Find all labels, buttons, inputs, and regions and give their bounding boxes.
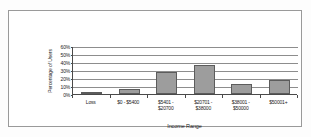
bar-slot xyxy=(73,46,111,94)
bar-slot xyxy=(223,46,261,94)
y-tick-label: 40% xyxy=(61,61,70,66)
bar xyxy=(231,84,252,94)
x-tick-label: $38001 -$50000 xyxy=(222,99,260,119)
x-axis-tick-labels: Loss$0 - $5400$5401 -$20700$20701 -$3800… xyxy=(72,99,297,119)
bar-slot xyxy=(148,46,186,94)
y-tick-label: 30% xyxy=(61,69,70,74)
x-tick-label-line: $20700 xyxy=(147,105,185,111)
y-tick-label: 20% xyxy=(61,77,70,82)
x-tick-label-line: Loss xyxy=(72,99,110,105)
bar xyxy=(119,89,140,94)
bar-slot xyxy=(111,46,149,94)
bar xyxy=(194,65,215,94)
y-tick-label: 50% xyxy=(61,53,70,58)
y-tick-label: 60% xyxy=(61,45,70,50)
x-tick-label: $20701 -$38000 xyxy=(185,99,223,119)
x-tick-mark xyxy=(222,95,223,98)
y-tick-label: 0% xyxy=(63,93,70,98)
chart-page: Percentage of Users 60%50%40%30%20%10%0%… xyxy=(0,0,311,137)
x-axis-title: Income Range xyxy=(72,123,297,130)
x-tick-label-line: $0 - $5400 xyxy=(110,99,148,105)
x-tick-mark xyxy=(110,95,111,98)
x-tick-label-line: $38000 xyxy=(185,105,223,111)
x-tick-label-line: $50001+ xyxy=(260,99,298,105)
bar-slot xyxy=(186,46,224,94)
bar-slot xyxy=(261,46,299,94)
x-tick-mark xyxy=(147,95,148,98)
bar xyxy=(156,72,177,94)
x-tick-mark xyxy=(72,95,73,98)
y-tick-label: 10% xyxy=(61,85,70,90)
bar-series xyxy=(73,46,298,94)
x-tick-label: $5401 -$20700 xyxy=(147,99,185,119)
chart-frame: Percentage of Users 60%50%40%30%20%10%0%… xyxy=(8,10,302,127)
x-tick-mark xyxy=(185,95,186,98)
y-axis-title: Percentage of Users xyxy=(45,47,55,95)
x-axis-ticks xyxy=(72,95,297,98)
x-tick-label: $50001+ xyxy=(260,99,298,119)
plot-area: 60%50%40%30%20%10%0% xyxy=(72,47,297,95)
x-tick-label: $0 - $5400 xyxy=(110,99,148,119)
x-tick-mark xyxy=(260,95,261,98)
bar xyxy=(81,92,102,94)
x-tick-mark xyxy=(297,95,298,98)
bar xyxy=(269,80,290,94)
x-tick-label-line: $50000 xyxy=(222,105,260,111)
x-tick-label: Loss xyxy=(72,99,110,119)
